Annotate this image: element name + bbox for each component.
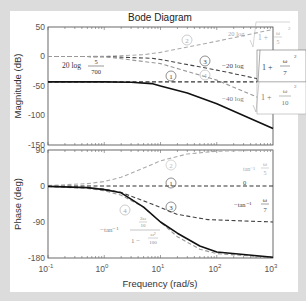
svg-text:100: 100 — [149, 240, 157, 245]
svg-text:103: 103 — [265, 263, 278, 274]
svg-text:2: 2 — [185, 37, 189, 45]
svg-text:−tan⁻¹: −tan⁻¹ — [234, 201, 252, 208]
magnitude-y-ticks: 50 0 -50 -100 -150 — [28, 22, 45, 150]
tick-label: 90 — [36, 145, 46, 155]
tick-label: 50 — [36, 22, 46, 32]
svg-text:1 −: 1 − — [131, 237, 140, 245]
magnitude-axis-label: Magnitude (dB) — [12, 54, 23, 119]
svg-text:ω: ω — [263, 161, 267, 167]
svg-text:100: 100 — [96, 263, 109, 274]
chart-title: Bode Diagram — [128, 12, 192, 23]
svg-text:700: 700 — [91, 68, 101, 75]
phase-formula-1: 0 — [243, 179, 246, 186]
gain-label: 20 log — [62, 61, 81, 70]
svg-text:ω: ω — [283, 87, 288, 95]
svg-text:1 +: 1 + — [261, 93, 272, 102]
svg-text:ω: ω — [283, 57, 288, 65]
svg-text:4: 4 — [123, 207, 127, 215]
tick-label: 0 — [40, 181, 45, 191]
svg-text:102: 102 — [209, 263, 222, 274]
svg-text:5: 5 — [94, 58, 97, 65]
svg-text:1 +: 1 + — [262, 63, 273, 72]
x-ticks: 10-1 100 101 102 103 — [39, 263, 278, 274]
tick-label: -90 — [33, 217, 46, 227]
tick-label: -50 — [33, 81, 46, 91]
svg-text:−tan⁻¹: −tan⁻¹ — [100, 226, 119, 234]
svg-text:2: 2 — [288, 26, 291, 31]
svg-text:2: 2 — [169, 162, 173, 170]
svg-text:10: 10 — [141, 223, 147, 228]
svg-text:ω²: ω² — [151, 232, 156, 237]
svg-text:1 +: 1 + — [258, 33, 268, 42]
tick-label: 0 — [40, 51, 45, 61]
svg-text:4: 4 — [203, 72, 207, 80]
bode-diagram: Bode Diagram Magnitude (dB) Phase (deg) … — [0, 0, 306, 301]
svg-text:2ω: 2ω — [140, 216, 147, 221]
tick-label: -180 — [28, 253, 45, 263]
svg-text:7: 7 — [283, 69, 287, 77]
svg-text:−20 log: −20 log — [222, 62, 244, 70]
svg-text:−40 log: −40 log — [222, 95, 244, 103]
svg-text:10: 10 — [282, 99, 290, 107]
tick-label: -100 — [28, 110, 45, 120]
svg-text:ω: ω — [263, 196, 268, 203]
svg-text:1: 1 — [169, 180, 173, 188]
phase-y-ticks: 90 0 -90 -180 — [28, 145, 45, 263]
phase-axis-label: Phase (deg) — [12, 178, 23, 230]
svg-text:3: 3 — [203, 58, 207, 66]
svg-text:tan⁻¹: tan⁻¹ — [243, 166, 255, 172]
x-axis-label: Frequency (rad/s) — [123, 278, 198, 289]
svg-text:20 log: 20 log — [228, 30, 245, 37]
svg-text:101: 101 — [152, 263, 165, 274]
svg-text:5: 5 — [264, 170, 267, 176]
svg-text:3: 3 — [169, 204, 173, 212]
svg-text:1: 1 — [169, 73, 173, 81]
svg-text:ω: ω — [276, 30, 280, 36]
svg-text:10-1: 10-1 — [39, 263, 54, 274]
svg-text:5: 5 — [277, 39, 280, 45]
